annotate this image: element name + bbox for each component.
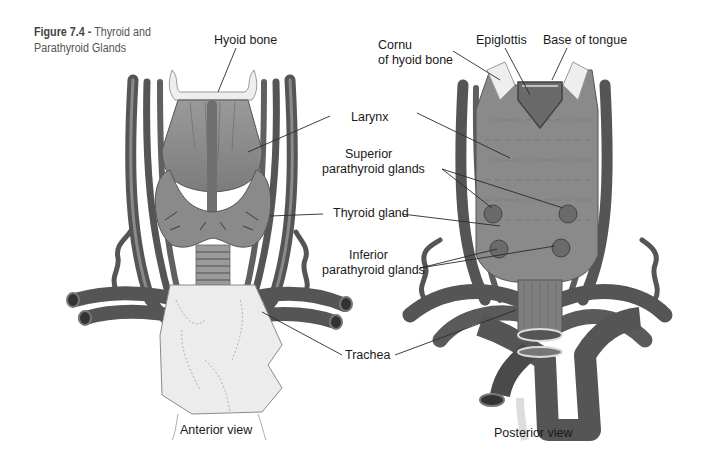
label-hyoid-bone: Hyoid bone xyxy=(214,33,277,47)
label-inferior-line2: parathyroid glands xyxy=(322,263,425,277)
caption-anterior-view: Anterior view xyxy=(180,423,253,437)
label-superior-line1: Superior xyxy=(345,147,392,161)
label-superior-line2: parathyroid glands xyxy=(322,162,425,176)
trachea-anterior xyxy=(196,245,230,285)
label-inferior-line1: Inferior xyxy=(349,248,388,262)
thyroid-diagram: Hyoid bone Cornu of hyoid bone Epiglotti… xyxy=(0,0,703,453)
caption-posterior-view: Posterior view xyxy=(494,426,573,440)
label-thyroid-gland: Thyroid gland xyxy=(333,206,409,220)
label-trachea: Trachea xyxy=(345,348,390,362)
posterior-view xyxy=(410,62,665,440)
hyoid-bone xyxy=(169,70,256,100)
label-larynx: Larynx xyxy=(351,110,389,124)
label-epiglottis: Epiglottis xyxy=(476,33,527,47)
label-base-of-tongue: Base of tongue xyxy=(543,33,627,47)
label-cornu-line2: of hyoid bone xyxy=(378,53,453,67)
label-cornu-line1: Cornu xyxy=(378,38,412,52)
